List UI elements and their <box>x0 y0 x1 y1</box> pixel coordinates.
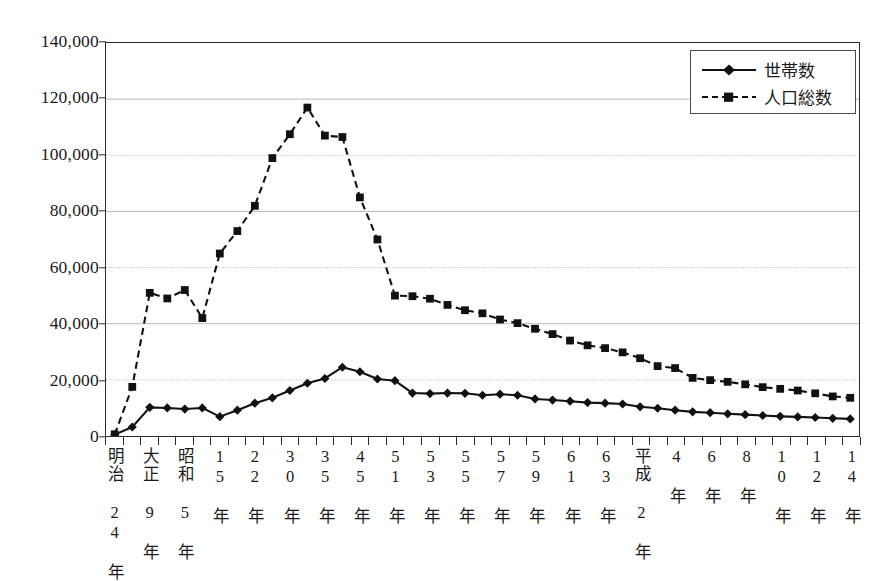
x-axis-tick-mark <box>737 437 738 445</box>
x-axis-tick-label: 6 年 <box>703 447 720 505</box>
data-point-marker <box>163 295 171 303</box>
data-point-marker <box>653 404 662 413</box>
x-axis-tick-mark <box>702 437 703 445</box>
data-point-marker <box>758 411 767 420</box>
x-axis-tick-mark <box>228 437 229 445</box>
y-axis-tick-label: 20,000 <box>50 372 99 390</box>
data-point-marker <box>549 330 557 338</box>
data-point-marker <box>373 374 382 383</box>
x-axis-tick-mark <box>597 437 598 445</box>
data-point-marker <box>829 393 837 401</box>
x-axis-tick-mark <box>491 437 492 445</box>
x-axis-tick-mark <box>614 437 615 445</box>
data-point-marker <box>128 383 136 391</box>
legend-label-households: 世帯数 <box>764 57 815 82</box>
x-axis-tick-label: 30 年 <box>281 447 298 525</box>
x-axis-tick-label: 45 年 <box>351 447 368 525</box>
data-point-marker <box>111 430 119 436</box>
data-point-marker <box>741 410 750 419</box>
data-point-marker <box>759 383 767 391</box>
x-axis-tick-mark <box>158 437 159 445</box>
x-axis-tick-mark <box>456 437 457 445</box>
data-point-marker <box>565 397 574 406</box>
data-point-marker <box>776 385 784 393</box>
data-point-marker <box>250 399 259 408</box>
x-axis-tick-mark <box>474 437 475 445</box>
data-point-marker <box>619 348 627 356</box>
data-point-marker <box>356 194 364 202</box>
x-axis-tick-mark <box>509 437 510 445</box>
data-point-marker <box>671 364 679 372</box>
x-axis-tick-mark <box>386 437 387 445</box>
x-axis-tick-mark <box>649 437 650 445</box>
data-point-marker <box>321 132 329 140</box>
x-axis-tick-mark <box>333 437 334 445</box>
data-point-marker <box>530 394 539 403</box>
legend-label-population: 人口総数 <box>764 84 832 109</box>
data-point-marker <box>706 376 714 384</box>
data-point-marker <box>514 319 522 327</box>
data-point-marker <box>198 403 207 412</box>
x-axis-tick-mark <box>403 437 404 445</box>
data-point-marker <box>846 394 854 402</box>
x-axis-tick-mark <box>790 437 791 445</box>
x-axis-tick-label: 61 年 <box>562 447 579 525</box>
data-point-marker <box>828 414 837 423</box>
data-point-marker <box>741 380 749 388</box>
data-point-marker <box>409 292 417 300</box>
data-point-marker <box>391 292 399 300</box>
x-axis-tick-mark <box>210 437 211 445</box>
x-axis-tick-mark <box>245 437 246 445</box>
data-point-marker <box>233 406 242 415</box>
data-point-marker <box>478 391 487 400</box>
legend-item-population: 人口総数 <box>691 83 855 110</box>
data-point-marker <box>496 316 504 324</box>
data-point-marker <box>618 399 627 408</box>
x-axis-tick-label: 10 年 <box>773 447 790 525</box>
data-point-marker <box>479 309 487 317</box>
data-point-marker <box>583 398 592 407</box>
data-point-marker <box>286 130 294 138</box>
data-point-marker <box>233 227 241 235</box>
data-point-marker <box>793 412 802 421</box>
data-point-marker <box>443 388 452 397</box>
data-point-marker <box>531 325 539 333</box>
x-axis-tick-mark <box>175 437 176 445</box>
data-point-marker <box>811 413 820 422</box>
series-line <box>115 367 850 434</box>
x-axis-tick-mark <box>263 437 264 445</box>
data-point-marker <box>268 154 276 162</box>
x-axis-tick-mark <box>562 437 563 445</box>
data-point-marker <box>215 412 224 421</box>
x-axis-tick-mark <box>684 437 685 445</box>
y-axis-label-group: 140,000120,000100,00080,00060,00040,0002… <box>0 42 99 437</box>
x-axis-tick-mark <box>579 437 580 445</box>
y-axis-tick-label: 0 <box>90 428 99 446</box>
data-point-marker <box>811 389 819 397</box>
series-line <box>115 108 850 435</box>
x-axis-tick-mark <box>667 437 668 445</box>
x-axis-tick-mark <box>842 437 843 445</box>
data-point-marker <box>689 374 697 382</box>
data-point-marker <box>339 133 347 141</box>
data-point-marker <box>461 306 469 314</box>
x-axis-tick-label: 明治 24 年 <box>106 447 123 581</box>
y-axis-tick-label: 40,000 <box>50 315 99 333</box>
x-axis-tick-label: 平成 2 年 <box>632 447 649 561</box>
x-axis-tick-label: 57 年 <box>492 447 509 525</box>
data-point-marker <box>636 402 645 411</box>
x-axis-tick-group <box>105 437 860 445</box>
data-point-marker <box>444 301 452 309</box>
data-point-marker <box>355 367 364 376</box>
data-point-marker <box>600 399 609 408</box>
series-households <box>110 363 855 436</box>
data-point-marker <box>180 404 189 413</box>
x-axis-tick-label: 55 年 <box>457 447 474 525</box>
data-point-marker <box>671 406 680 415</box>
x-axis-tick-mark <box>316 437 317 445</box>
series-population <box>111 104 854 436</box>
data-point-marker <box>654 362 662 370</box>
data-point-marker <box>216 250 224 258</box>
x-axis-tick-label: 59 年 <box>527 447 544 525</box>
